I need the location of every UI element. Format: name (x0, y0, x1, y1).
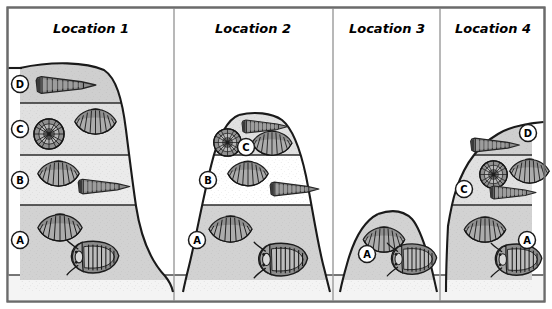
loc4-layer-label-A: A (523, 235, 531, 246)
fossil-ammonite (34, 119, 64, 149)
location-2-title: Location 2 (215, 21, 291, 36)
loc2-layer-label-A: A (193, 235, 201, 246)
fossil-ammonite (214, 129, 241, 156)
loc4-layer-label-D: D (524, 128, 532, 139)
location-1-title: Location 1 (53, 21, 129, 36)
loc3-layer-labels: A (359, 246, 376, 263)
loc1-layer-label-C: C (16, 124, 23, 135)
location-4-title: Location 4 (455, 21, 531, 36)
loc1-layer-label-B: B (16, 175, 24, 186)
loc3-layer-label-A: A (363, 249, 371, 260)
loc1-layer-label-A: A (16, 235, 24, 246)
location-3-title: Location 3 (349, 21, 425, 36)
fossil-ammonite (480, 161, 507, 188)
loc2-layer-label-C: C (242, 142, 249, 153)
stratigraphy-figure: Location 1 Location 2 Location 3 Locatio… (0, 0, 552, 309)
loc2-layer-label-B: B (204, 175, 212, 186)
loc1-layer-label-D: D (16, 79, 24, 90)
loc4-layer-label-C: C (460, 184, 467, 195)
figure-canvas: Location 1 Location 2 Location 3 Locatio… (0, 0, 552, 309)
